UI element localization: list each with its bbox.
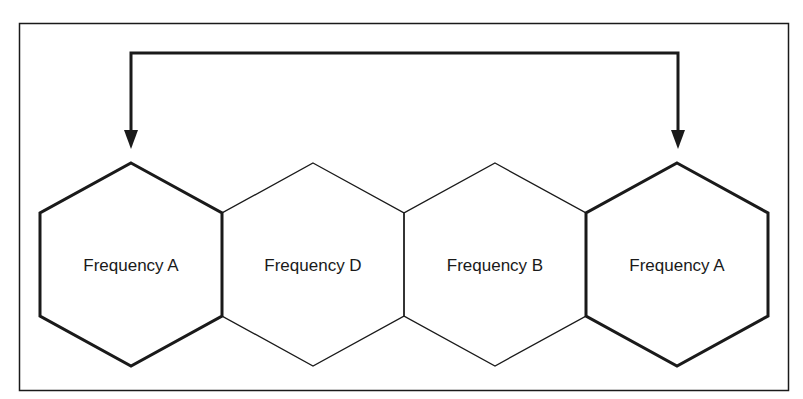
frame-border	[20, 24, 789, 391]
cell-label-2: Frequency D	[222, 256, 404, 276]
arrowhead-down-left-icon	[124, 130, 138, 149]
connector-line	[131, 53, 678, 140]
cell-label-4: Frequency A	[586, 256, 768, 276]
cell-label-3: Frequency B	[404, 256, 586, 276]
cell-label-1: Frequency A	[40, 256, 222, 276]
arrowhead-down-right-icon	[671, 130, 685, 149]
diagram-canvas	[0, 0, 803, 399]
